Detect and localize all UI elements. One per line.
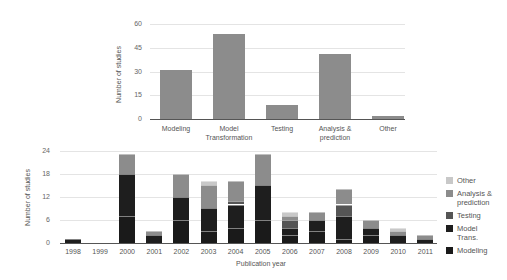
segment-model-trans- (146, 235, 162, 243)
bottom-x-axis-label: Publication year (216, 259, 306, 268)
legend-swatch (446, 212, 453, 219)
segment-model-trans- (228, 205, 244, 228)
gridline (60, 174, 437, 175)
segment-analysis-prediction (309, 212, 325, 220)
x-tick-label: 2003 (195, 247, 223, 256)
legend-swatch (446, 247, 453, 254)
segment-model-trans- (363, 228, 379, 236)
legend-label: Modeling (457, 246, 487, 255)
legend-swatch (446, 225, 453, 232)
segment-analysis-prediction (390, 231, 406, 235)
legend-swatch (446, 190, 453, 197)
bottom-chart: Number of studies 06121824 1998199920002… (0, 0, 507, 280)
segment-analysis-prediction (255, 154, 271, 185)
segment-modeling (119, 216, 135, 243)
gridline (60, 151, 437, 152)
legend-item: Other (446, 176, 506, 185)
x-tick-label: 1998 (59, 247, 87, 256)
segment-model-trans- (417, 239, 433, 243)
segment-model-trans- (390, 235, 406, 243)
gridline (60, 197, 437, 198)
segment-modeling (309, 231, 325, 243)
segment-modeling (255, 220, 271, 243)
segment-other (201, 181, 217, 185)
segment-analysis-prediction (201, 185, 217, 208)
legend-item: Analysis &prediction (446, 189, 506, 207)
segment-modeling (173, 220, 189, 243)
legend-label: Analysis &prediction (457, 189, 492, 207)
y-tick-label: 18 (30, 170, 50, 178)
segment-testing (282, 220, 298, 228)
legend-item: Modeling (446, 246, 506, 255)
legend-item: ModelTrans. (446, 224, 506, 242)
legend-label: Other (457, 176, 476, 185)
x-tick-label: 2011 (411, 247, 439, 256)
segment-analysis-prediction (282, 216, 298, 220)
segment-analysis-prediction (336, 189, 352, 204)
segment-modeling (363, 235, 379, 243)
segment-modeling (201, 231, 217, 243)
segment-analysis-prediction (146, 231, 162, 235)
x-tick-label: 2008 (330, 247, 358, 256)
segment-modeling (336, 239, 352, 243)
segment-model-trans- (65, 239, 81, 243)
legend-swatch (446, 177, 453, 184)
x-tick-label: 2002 (167, 247, 195, 256)
x-tick-label: 2007 (303, 247, 331, 256)
segment-modeling (282, 235, 298, 243)
segment-analysis-prediction (417, 235, 433, 239)
x-tick-label: 2010 (384, 247, 412, 256)
segment-analysis-prediction (363, 220, 379, 228)
segment-model-trans- (119, 174, 135, 216)
legend-label: Testing (457, 211, 481, 220)
x-tick-label: 2005 (249, 247, 277, 256)
y-tick-label: 24 (30, 147, 50, 155)
segment-analysis-prediction (228, 181, 244, 200)
x-tick-label: 2009 (357, 247, 385, 256)
segment-model-trans- (282, 228, 298, 236)
legend-item: Testing (446, 211, 506, 220)
y-tick-label: 12 (30, 193, 50, 201)
segment-analysis-prediction (173, 174, 189, 197)
x-axis-line (60, 243, 437, 244)
x-tick-label: 2000 (113, 247, 141, 256)
y-tick-label: 0 (30, 239, 50, 247)
x-tick-label: 2006 (276, 247, 304, 256)
x-tick-label: 2004 (222, 247, 250, 256)
y-tick-label: 6 (30, 216, 50, 224)
segment-testing (228, 201, 244, 205)
segment-other (390, 228, 406, 232)
segment-modeling (228, 228, 244, 243)
segment-model-trans- (201, 208, 217, 231)
x-tick-label: 1999 (86, 247, 114, 256)
segment-analysis-prediction (119, 154, 135, 173)
gridline (60, 220, 437, 221)
segment-other (282, 212, 298, 216)
x-tick-label: 2001 (140, 247, 168, 256)
segment-testing (336, 205, 352, 217)
segment-model-trans- (336, 216, 352, 239)
legend: OtherAnalysis &predictionTestingModelTra… (446, 176, 506, 259)
legend-label: ModelTrans. (457, 224, 478, 242)
segment-model-trans- (173, 197, 189, 220)
segment-model-trans- (309, 220, 325, 232)
segment-model-trans- (255, 185, 271, 220)
